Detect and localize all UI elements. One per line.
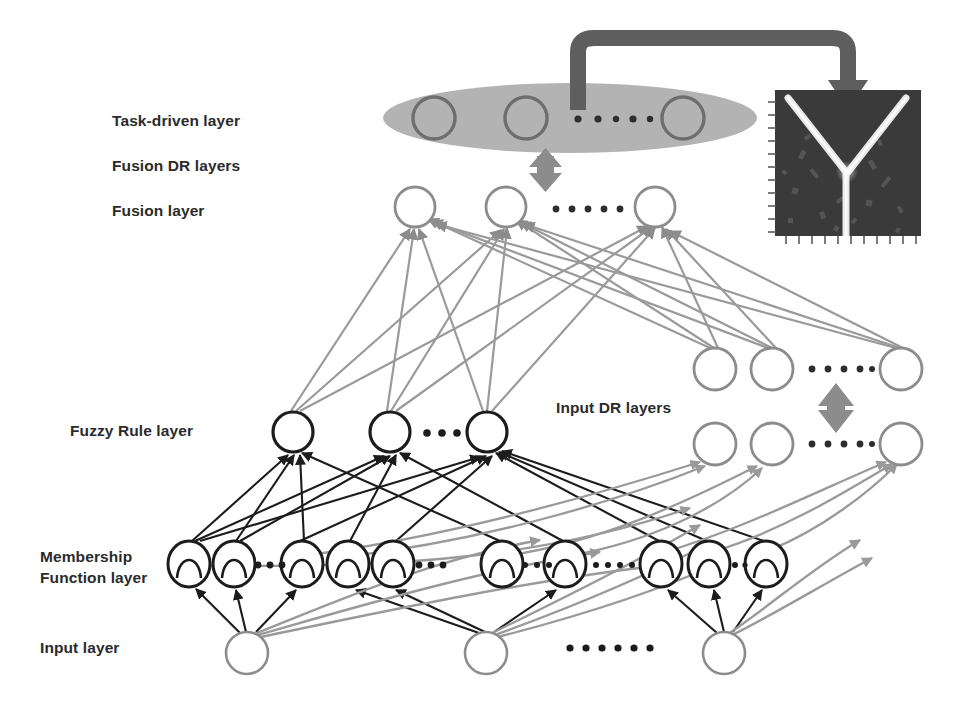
membership-node: [281, 541, 323, 587]
fuzzy-rule-layer-nodes: [273, 412, 507, 452]
edges-membership-to-fuzzy-rule: [192, 451, 764, 541]
label-membership-line1: Membership: [40, 546, 147, 567]
input-dr-upper-row: [694, 348, 922, 390]
fuzzy-rule-ellipsis: [423, 429, 461, 437]
input-node: [226, 632, 268, 674]
membership-node: [481, 541, 523, 587]
membership-node: [213, 541, 255, 587]
input-node: [703, 632, 745, 674]
fusion-dr-bidirectional-arrow: [529, 148, 562, 192]
input-dr-node: [694, 348, 736, 390]
input-dr-node: [751, 348, 793, 390]
fusion-layer-nodes: [395, 187, 675, 227]
membership-node: [327, 541, 369, 587]
fuzzy-rule-node: [370, 412, 410, 452]
fuzzy-rule-node: [467, 412, 507, 452]
input-node: [465, 632, 507, 674]
label-fusion-dr-layers: Fusion DR layers: [112, 156, 240, 175]
input-dr-lower-row: [694, 423, 922, 465]
fusion-node: [635, 187, 675, 227]
input-layer-ellipsis: [566, 644, 653, 651]
label-membership-function-layer: Membership Function layer: [40, 546, 147, 588]
edges-input-to-membership: [196, 589, 762, 633]
input-dr-bidirectional-arrow: [818, 383, 854, 433]
input-dr-node: [751, 423, 793, 465]
membership-node: [372, 541, 414, 587]
membership-node: [168, 541, 210, 587]
input-dr-upper-ellipsis: [809, 366, 875, 373]
output-thumbnail: [768, 90, 921, 244]
membership-node: [640, 541, 682, 587]
fusion-ellipsis: [553, 206, 624, 213]
label-input-dr-layers: Input DR layers: [556, 398, 671, 417]
membership-node: [688, 541, 730, 587]
fusion-node: [486, 187, 526, 227]
fuzzy-rule-node: [273, 412, 313, 452]
label-membership-line2: Function layer: [40, 567, 147, 588]
input-dr-node: [880, 348, 922, 390]
membership-node: [745, 541, 787, 587]
edges-fuzzy-rule-to-fusion: [291, 226, 655, 411]
label-fusion-layer: Fusion layer: [112, 201, 205, 220]
input-layer-nodes: [226, 632, 745, 674]
network-architecture-svg: [0, 0, 962, 715]
fusion-node: [395, 187, 435, 227]
label-input-layer: Input layer: [40, 638, 119, 657]
diagram-canvas: Task-driven layer Fusion DR layers Fusio…: [0, 0, 962, 715]
input-dr-lower-ellipsis: [809, 441, 875, 448]
label-fuzzy-rule-layer: Fuzzy Rule layer: [70, 421, 193, 440]
input-dr-node: [880, 423, 922, 465]
input-dr-node: [694, 423, 736, 465]
label-task-driven-layer: Task-driven layer: [112, 111, 240, 130]
membership-function-layer-nodes: [168, 541, 787, 587]
